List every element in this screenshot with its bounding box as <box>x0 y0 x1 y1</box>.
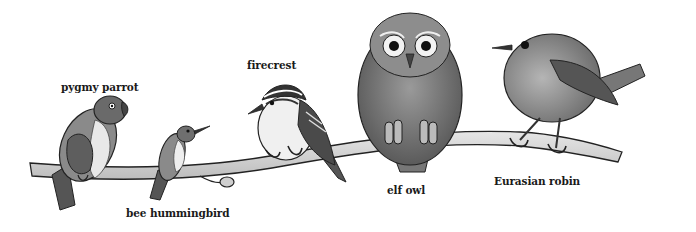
label-eurasian-robin: Eurasian robin <box>494 175 580 187</box>
label-pygmy-parrot: pygmy parrot <box>61 81 139 93</box>
illustration-canvas <box>0 0 696 232</box>
bird-size-illustration: pygmy parrot bee hummingbird firecrest e… <box>0 0 696 232</box>
label-bee-hummingbird: bee hummingbird <box>126 207 230 219</box>
label-firecrest: firecrest <box>247 59 296 71</box>
hummingbird-icon <box>150 126 210 200</box>
label-elf-owl: elf owl <box>387 184 425 196</box>
parrot-icon <box>48 96 128 210</box>
